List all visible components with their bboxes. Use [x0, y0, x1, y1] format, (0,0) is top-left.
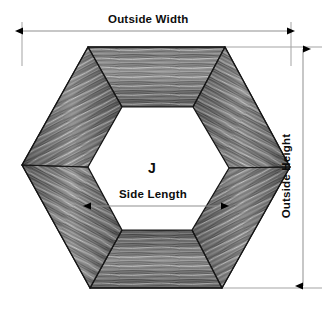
label-outside-width: Outside Width — [108, 13, 188, 25]
hexagon-dimension-diagram: Outside Width Outside Height Side Length… — [0, 0, 329, 313]
label-side-length: Side Length — [119, 188, 187, 200]
label-outside-height: Outside Height — [280, 134, 292, 219]
label-interior-j: J — [148, 160, 156, 176]
hexagon-wood-frame — [22, 47, 290, 288]
